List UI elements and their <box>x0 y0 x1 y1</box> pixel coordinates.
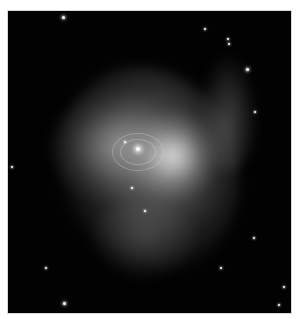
star <box>253 237 255 239</box>
nebula-lower-region <box>88 201 198 281</box>
star <box>278 304 280 306</box>
star <box>63 302 66 305</box>
pulsar-ring-outer <box>112 133 164 171</box>
star <box>246 68 249 71</box>
star <box>45 267 47 269</box>
star <box>220 267 222 269</box>
star <box>62 16 65 19</box>
star <box>144 210 146 212</box>
star <box>204 28 206 30</box>
star <box>124 141 126 143</box>
pulsar-core <box>136 147 140 151</box>
star <box>131 187 133 189</box>
star <box>11 166 13 168</box>
star <box>254 111 256 113</box>
star <box>228 43 230 45</box>
star <box>227 38 229 40</box>
star <box>283 286 285 288</box>
nebula-image <box>8 11 291 313</box>
